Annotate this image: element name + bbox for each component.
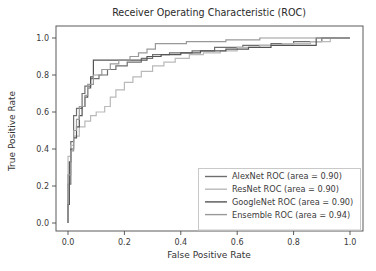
legend-label-resnet: ResNet ROC (area = 0.90): [232, 184, 339, 194]
y-tick-label: 0.0: [36, 219, 49, 228]
chart-title: Receiver Operating Characteristic (ROC): [112, 7, 306, 18]
x-tick-label: 0.2: [118, 238, 131, 247]
y-tick-label: 0.4: [36, 145, 49, 154]
y-tick-label: 1.0: [36, 34, 49, 43]
roc-chart-canvas: Receiver Operating Characteristic (ROC) …: [0, 0, 376, 271]
legend-label-alexnet: AlexNet ROC (area = 0.90): [232, 171, 342, 181]
legend-label-googlenet: GoogleNet ROC (area = 0.90): [232, 197, 353, 207]
x-tick-label: 0.6: [231, 238, 244, 247]
x-tick-label: 1.0: [344, 238, 357, 247]
x-axis-label: False Positive Rate: [167, 250, 251, 260]
y-tick-label: 0.2: [36, 182, 49, 191]
x-tick-label: 0.8: [287, 238, 300, 247]
y-axis-label: True Positive Rate: [7, 90, 17, 172]
y-tick-label: 0.8: [36, 71, 49, 80]
y-tick-label: 0.6: [36, 108, 49, 117]
roc-figure: Receiver Operating Characteristic (ROC) …: [0, 0, 376, 271]
x-tick-label: 0.4: [174, 238, 187, 247]
x-tick-label: 0.0: [62, 238, 75, 247]
legend-label-ensemble: Ensemble ROC (area = 0.94): [232, 210, 350, 220]
legend: AlexNet ROC (area = 0.90)ResNet ROC (are…: [199, 169, 361, 231]
